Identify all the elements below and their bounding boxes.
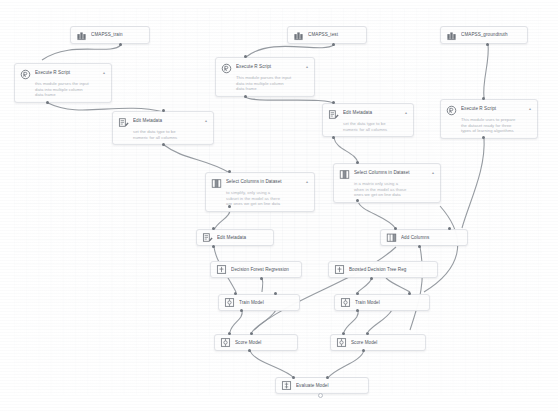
- chevron-up-icon[interactable]: ▴: [405, 108, 407, 116]
- node-title: Score Model: [351, 340, 419, 346]
- add-columns-icon: [386, 232, 397, 243]
- score-model-icon: [336, 337, 347, 348]
- evaluate-model-icon: [281, 380, 292, 391]
- pipeline-canvas[interactable]: CMAPSS_train CMAPSS_test CMAPSS_groundtr…: [0, 0, 558, 411]
- node-description: This module parses the input data into m…: [236, 75, 308, 92]
- desc-line: data frame: [35, 92, 105, 98]
- node-description: this module parses the input data into m…: [35, 81, 105, 98]
- node-header: Execute R Script ▴: [446, 104, 531, 116]
- node-decision-forest-regression[interactable]: Decision Forest Regression: [210, 261, 302, 278]
- train-model-icon: [340, 297, 351, 308]
- node-title: Execute R Script: [461, 104, 525, 112]
- chevron-up-icon[interactable]: ▴: [529, 104, 531, 112]
- train-model-icon: [224, 297, 235, 308]
- node-evaluate-model[interactable]: Evaluate Model: [275, 377, 369, 394]
- r-script-icon: [221, 63, 232, 74]
- edit-metadata-icon: [202, 232, 213, 243]
- score-model-icon: [220, 337, 231, 348]
- node-header: Execute R Script ▴: [221, 62, 308, 74]
- node-title: Add Columns: [401, 235, 461, 241]
- node-header: Decision Forest Regression: [216, 264, 295, 276]
- chevron-up-icon[interactable]: ▴: [205, 116, 207, 124]
- node-cmapss-test[interactable]: CMAPSS_test: [287, 26, 367, 44]
- edit-metadata-icon: [328, 109, 339, 120]
- node-title: Score Model: [235, 340, 291, 346]
- node-description: set the data type to be numeric for all …: [343, 121, 407, 132]
- chevron-up-icon[interactable]: ▴: [306, 177, 308, 185]
- chevron-up-icon[interactable]: ▴: [103, 68, 105, 76]
- node-header: Score Model: [336, 337, 419, 349]
- node-header: CMAPSS_test: [293, 29, 360, 41]
- node-execute-r-script-truth[interactable]: Execute R Script ▴ This module uses to p…: [440, 99, 538, 139]
- node-header: Edit Metadata ▴: [118, 116, 207, 128]
- node-add-columns[interactable]: Add Columns: [380, 229, 468, 246]
- desc-line: numeric for all columns: [133, 135, 207, 141]
- desc-line: are ones we get on line data: [226, 201, 308, 207]
- node-title: Edit Metadata: [133, 116, 201, 124]
- node-title: Edit Metadata: [343, 108, 401, 116]
- node-select-columns-train[interactable]: Select Columns in Dataset ▴ to simplify,…: [205, 172, 315, 212]
- node-header: Edit Metadata: [202, 232, 267, 244]
- node-title: Train Model: [355, 300, 423, 306]
- node-select-columns-test[interactable]: Select Columns in Dataset ▴ in a matrix …: [333, 163, 441, 203]
- node-description: in a matrix only using a when in the mod…: [354, 181, 434, 198]
- dataset-icon: [446, 30, 457, 41]
- node-header: Score Model: [220, 337, 291, 349]
- node-cmapss-train[interactable]: CMAPSS_train: [70, 26, 150, 44]
- node-header: Evaluate Model: [281, 380, 362, 392]
- node-title: Edit Metadata: [217, 235, 267, 241]
- algorithm-icon: [334, 264, 345, 275]
- chevron-up-icon[interactable]: ▴: [432, 168, 434, 176]
- select-columns-icon: [339, 169, 350, 180]
- node-description: set the data type to be numeric for all …: [133, 129, 207, 140]
- desc-line: data frame: [236, 86, 308, 92]
- node-header: Select Columns in Dataset ▴: [211, 177, 308, 189]
- node-title: Evaluate Model: [296, 383, 362, 389]
- node-title: Select Columns in Dataset: [226, 177, 302, 185]
- node-boosted-decision-tree-regression[interactable]: Boosted Decision Tree Reg: [328, 261, 438, 278]
- node-edit-metadata-test[interactable]: Edit Metadata ▴ set the data type to be …: [322, 103, 414, 137]
- node-header: CMAPSS_train: [76, 29, 143, 41]
- node-title: CMAPSS_groundtruth: [461, 32, 521, 38]
- desc-line: types of learning algorithms: [461, 128, 531, 134]
- node-score-model-left[interactable]: Score Model: [214, 334, 298, 351]
- node-score-model-right[interactable]: Score Model: [330, 334, 426, 351]
- node-description: to simplify, only using a subset in the …: [226, 190, 308, 207]
- node-title: Boosted Decision Tree Reg: [349, 267, 431, 273]
- node-header: Train Model: [224, 297, 293, 309]
- r-script-icon: [20, 69, 31, 80]
- node-execute-r-script-train[interactable]: Execute R Script ▴ this module parses th…: [14, 63, 112, 103]
- node-title: Select Columns in Dataset: [354, 168, 428, 176]
- node-train-model-left[interactable]: Train Model: [218, 294, 300, 311]
- node-description: This module uses to prepare the dataset …: [461, 117, 531, 134]
- node-header: Add Columns: [386, 232, 461, 244]
- r-script-icon: [446, 105, 457, 116]
- node-edit-metadata-lower[interactable]: Edit Metadata: [196, 229, 274, 246]
- node-cmapss-groundtruth[interactable]: CMAPSS_groundtruth: [440, 26, 528, 44]
- dataset-icon: [293, 30, 304, 41]
- node-header: Execute R Script ▴: [20, 68, 105, 80]
- node-title: Execute R Script: [236, 62, 302, 70]
- node-title: Decision Forest Regression: [231, 267, 295, 273]
- algorithm-icon: [216, 264, 227, 275]
- node-title: CMAPSS_train: [91, 32, 143, 38]
- desc-line: ones we get on line data: [354, 192, 434, 198]
- node-header: Edit Metadata ▴: [328, 108, 407, 120]
- node-header: Train Model: [340, 297, 423, 309]
- node-execute-r-script-test[interactable]: Execute R Script ▴ This module parses th…: [215, 57, 315, 97]
- edit-metadata-icon: [118, 117, 129, 128]
- node-header: Boosted Decision Tree Reg: [334, 264, 431, 276]
- node-title: CMAPSS_test: [308, 32, 360, 38]
- dataset-icon: [76, 30, 87, 41]
- node-title: Execute R Script: [35, 68, 99, 76]
- select-columns-icon: [211, 178, 222, 189]
- chevron-up-icon[interactable]: ▴: [306, 62, 308, 70]
- node-header: CMAPSS_groundtruth: [446, 29, 521, 41]
- desc-line: numeric for all columns: [343, 127, 407, 133]
- node-title: Train Model: [239, 300, 293, 306]
- port-output-evaluate-model[interactable]: [318, 393, 323, 398]
- node-header: Select Columns in Dataset ▴: [339, 168, 434, 180]
- node-train-model-right[interactable]: Train Model: [334, 294, 430, 311]
- node-edit-metadata-train[interactable]: Edit Metadata ▴ set the data type to be …: [112, 111, 214, 145]
